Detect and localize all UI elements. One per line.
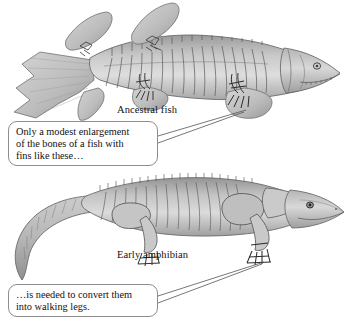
fish-callout-line-2: of the bones of a fish with [16,138,150,150]
amphibian-nostril [335,208,337,210]
amphibian-callout-line-2: into walking legs. [16,301,150,313]
fish-callout-line-3: fins like these… [16,150,150,162]
early-amphibian-illustration [15,173,344,280]
fish-anal-fin [78,88,104,120]
amphibian-leader-lines [158,262,264,303]
early-amphibian-label: Early amphibian [117,249,188,260]
evolution-figure: Ancestral fish Early amphibian Only a mo… [0,0,349,329]
fish-callout-line-1: Only a modest enlargement [16,126,150,138]
amphibian-callout-line-1: …is needed to convert them [16,289,150,301]
amphibian-tail [15,196,92,280]
fish-fins-callout: Only a modest enlargement of the bones o… [8,121,158,166]
fish-dorsal-fin-posterior [65,12,112,50]
ancestral-fish-label: Ancestral fish [117,104,177,115]
walking-legs-callout: …is needed to convert them into walking … [8,284,158,317]
ancestral-fish-illustration [14,3,340,120]
